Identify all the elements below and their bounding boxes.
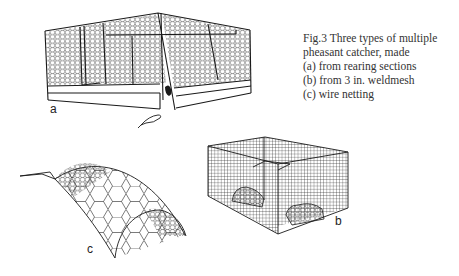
label-a: a: [50, 102, 57, 116]
caption-item-c: (c) wire netting: [303, 87, 437, 101]
caption-item-b: (b) from 3 in. weldmesh: [303, 73, 437, 87]
caption-title: Fig.3 Three types of multiple: [303, 31, 437, 45]
trap-c-wire-netting: [20, 163, 186, 258]
trap-a-rearing-sections: [45, 13, 251, 128]
label-b: b: [335, 214, 342, 228]
caption-line2: pheasant catcher, made: [303, 45, 437, 59]
caption-item-a: (a) from rearing sections: [303, 59, 437, 73]
label-c: c: [87, 242, 93, 256]
figure-caption: Fig.3 Three types of multiple pheasant c…: [303, 31, 437, 101]
trap-b-weldmesh: [208, 137, 348, 234]
